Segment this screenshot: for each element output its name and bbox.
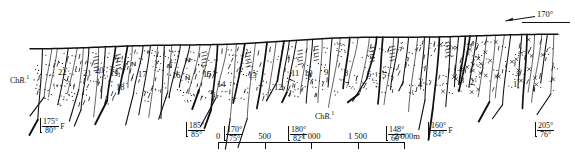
strike-dip-values: 160°84°: [430, 122, 447, 140]
scale-bar-label: 1 500: [348, 131, 367, 141]
scale-bar-label: 1 000: [301, 131, 320, 141]
strike-dip-values: 205°76°: [537, 122, 554, 140]
scale-bar-tick: [358, 142, 359, 149]
unit-number: 20: [95, 66, 104, 75]
unit-number: 13: [248, 71, 257, 80]
scale-bar-label: 0: [216, 131, 220, 141]
unit-number: 12: [274, 83, 283, 92]
formation-label: ChB.1: [315, 110, 334, 121]
left-arrow-icon: [505, 10, 535, 18]
unit-number: 1: [513, 80, 517, 89]
formation-label: ChB.1: [10, 74, 29, 85]
unit-number: 18: [116, 83, 125, 92]
dip-value: 85°: [190, 131, 203, 139]
unit-number: 4: [418, 80, 422, 89]
unit-number: 6: [367, 70, 371, 79]
scale-bar: 05001 0001 5002 000m: [218, 131, 404, 151]
unit-number: 11: [291, 69, 299, 78]
unit-number: 9: [324, 68, 328, 77]
strike-dip-symbol: 175°80°F: [40, 118, 65, 136]
scale-bar-ticks: [218, 142, 404, 151]
dip-suffix: F: [60, 122, 64, 131]
unit-number: 15: [203, 70, 212, 79]
scale-bar-tick: [311, 142, 312, 149]
scale-bar-tick: [265, 142, 266, 149]
heading-label: 170°: [537, 10, 553, 19]
strike-dip-values: 185°85°: [188, 122, 205, 140]
unit-number: 10: [304, 69, 313, 78]
scale-bar-label: 2 000m: [394, 131, 420, 141]
scale-bar-tick: [218, 142, 219, 149]
unit-number: 17: [138, 70, 147, 79]
unit-number: 14: [217, 80, 226, 89]
scale-bar-label: 500: [258, 131, 271, 141]
strike-dip-values: 175°80°: [42, 118, 59, 136]
dip-value: 80°: [44, 127, 57, 135]
strike-dip-symbol: 185°85°: [186, 122, 205, 140]
unit-number: 3: [460, 76, 464, 85]
unit-number: 22: [58, 68, 67, 77]
unit-number: 16: [172, 71, 181, 80]
dip-value: 84°: [432, 131, 445, 139]
strike-dip-symbol: 205°76°: [535, 122, 554, 140]
strike-dip-symbol: 160°84°F: [428, 122, 453, 140]
unit-number: 5: [382, 71, 386, 80]
scale-bar-labels: 05001 0001 5002 000m: [218, 131, 404, 142]
heading-underline: [522, 22, 570, 23]
heading-annotation: 170°: [505, 10, 553, 19]
unit-number: 7: [345, 81, 349, 90]
geological-cross-section-figure: 170° 22212019181716151413121110987654321…: [0, 0, 575, 161]
unit-number: 2: [470, 78, 474, 87]
unit-number: 19: [110, 69, 119, 78]
scale-bar-tick: [404, 142, 405, 149]
unit-number: 21: [83, 69, 92, 78]
unit-number: 8: [344, 69, 348, 78]
dip-value: 76°: [539, 131, 552, 139]
dip-suffix: F: [448, 126, 452, 135]
